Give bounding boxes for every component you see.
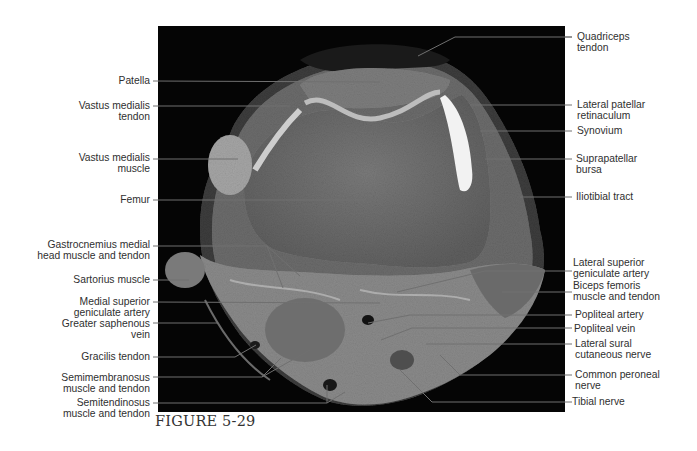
label-patella: Patella: [119, 75, 150, 86]
label-semitendinosus: Semitendinosus muscle and tendon: [63, 397, 150, 419]
label-popliteal-vein: Popliteal vein: [574, 323, 635, 334]
label-biceps-femoris: Biceps femoris muscle and tendon: [573, 280, 660, 302]
label-iliotibial-tract: Iliotibial tract: [576, 191, 633, 202]
label-medial-superior-geniculate-artery: Medial superior geniculate artery: [74, 296, 150, 318]
label-lateral-patellar-retinaculum: Lateral patellar retinaculum: [577, 99, 645, 121]
label-popliteal-artery: Popliteal artery: [575, 309, 644, 320]
figure-caption: FIGURE 5-29: [155, 413, 255, 429]
label-vastus-medialis-tendon: Vastus medialis tendon: [79, 100, 150, 122]
anatomy-figure: Patella Vastus medialis tendon Vastus me…: [0, 0, 697, 451]
label-sartorius-muscle: Sartorius muscle: [73, 274, 150, 285]
label-tibial-nerve: Tibial nerve: [572, 396, 625, 407]
label-greater-saphenous-vein: Greater saphenous vein: [62, 318, 150, 340]
label-gracilis-tendon: Gracilis tendon: [81, 351, 150, 362]
label-lateral-superior-geniculate-artery: Lateral superior geniculate artery: [573, 257, 649, 279]
label-quadriceps-tendon: Quadriceps tendon: [577, 31, 630, 53]
label-vastus-medialis-muscle: Vastus medialis muscle: [79, 152, 150, 174]
label-synovium: Synovium: [577, 125, 622, 136]
label-lateral-sural-cutaneous-nerve: Lateral sural cutaneous nerve: [575, 338, 651, 360]
label-suprapatellar-bursa: Suprapatellar bursa: [576, 153, 637, 175]
label-femur: Femur: [120, 194, 150, 205]
label-common-peroneal-nerve: Common peroneal nerve: [575, 369, 660, 391]
sartorius-shape: [165, 252, 205, 288]
label-gastrocnemius-medial-head: Gastrocnemius medial head muscle and ten…: [37, 239, 150, 261]
label-semimembranosus: Semimembranosus muscle and tendon: [61, 372, 150, 394]
